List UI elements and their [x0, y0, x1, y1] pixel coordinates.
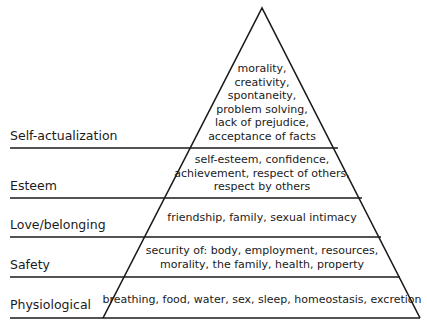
need-item: friendship, family, sexual intimacy — [167, 211, 356, 225]
need-item: creativity, — [208, 76, 316, 90]
need-item: respect by others — [174, 180, 350, 194]
level-label-esteem: Esteem — [10, 178, 57, 193]
level-label-love-belonging: Love/belonging — [10, 217, 106, 232]
need-item: security of: body, employment, resources… — [146, 244, 378, 258]
need-item: lack of prejudice, — [208, 116, 316, 130]
tier-esteem-needs: self-esteem, confidence, achievement, re… — [174, 153, 350, 194]
tier-physiological-needs: breathing, food, water, sex, sleep, home… — [102, 293, 421, 307]
tier-love-belonging-needs: friendship, family, sexual intimacy — [167, 211, 356, 225]
need-item: problem solving, — [208, 103, 316, 117]
need-item: breathing, food, water, sex, sleep, home… — [102, 293, 421, 307]
level-label-safety: Safety — [10, 257, 50, 272]
need-item: morality, — [208, 62, 316, 76]
level-label-physiological: Physiological — [10, 297, 91, 312]
need-item: achievement, respect of others, — [174, 167, 350, 181]
need-item: spontaneity, — [208, 89, 316, 103]
need-item: morality, the family, health, property — [146, 258, 378, 272]
level-label-self-actualization: Self-actualization — [10, 128, 117, 143]
tier-safety-needs: security of: body, employment, resources… — [146, 244, 378, 271]
tier-self-actualization-needs: morality, creativity, spontaneity, probl… — [208, 62, 316, 143]
need-item: acceptance of facts — [208, 130, 316, 144]
need-item: self-esteem, confidence, — [174, 153, 350, 167]
